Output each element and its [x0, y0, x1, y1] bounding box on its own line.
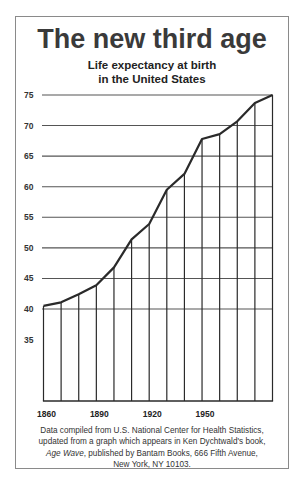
- x-tick-1950: 1950: [196, 409, 215, 419]
- caption-line-1: Data compiled from U.S. National Center …: [15, 425, 289, 436]
- caption-line-3: Age Wave, published by Bantam Books, 666…: [15, 448, 289, 459]
- source-caption: Data compiled from U.S. National Center …: [15, 425, 289, 470]
- caption-line-4: New York, NY 10103.: [15, 459, 289, 470]
- caption-line-3-rest: , published by Bantam Books, 666 Fifth A…: [84, 449, 258, 458]
- x-tick-1920: 1920: [143, 409, 162, 419]
- y-tick-60: 60: [24, 182, 34, 192]
- y-axis-tick-labels: 757065605550454035: [24, 90, 34, 345]
- y-tick-55: 55: [24, 212, 34, 222]
- y-tick-35: 35: [24, 335, 34, 345]
- y-tick-50: 50: [24, 243, 34, 253]
- book-title: Age Wave: [46, 449, 84, 458]
- y-tick-70: 70: [24, 121, 34, 131]
- life-expectancy-line: [44, 95, 273, 306]
- y-gridlines: [42, 95, 273, 309]
- y-tick-45: 45: [24, 273, 34, 283]
- x-tick-1860: 1860: [37, 409, 56, 419]
- line-chart: 757065605550454035 1860189019201950: [0, 0, 305, 487]
- x-axis-tick-labels: 1860189019201950: [37, 409, 215, 419]
- y-tick-65: 65: [24, 151, 34, 161]
- y-tick-75: 75: [24, 90, 34, 100]
- x-tick-1890: 1890: [90, 409, 109, 419]
- data-line: [44, 95, 273, 306]
- y-tick-40: 40: [24, 304, 34, 314]
- caption-line-2: updated from a graph which appears in Ke…: [15, 436, 289, 447]
